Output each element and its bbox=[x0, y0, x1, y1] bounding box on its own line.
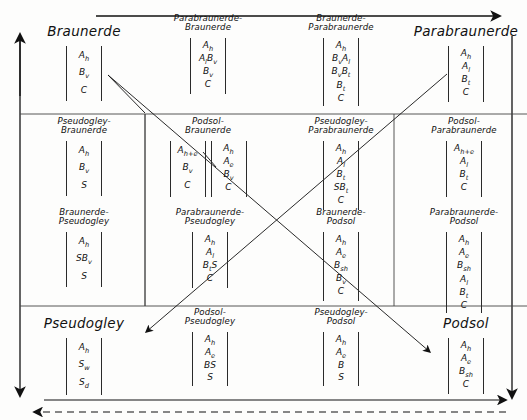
horizon-label: Bv bbox=[182, 160, 192, 177]
horizon-label: Ah bbox=[336, 234, 346, 247]
cell-title: Braunerde- Podsol bbox=[282, 208, 400, 227]
horizon-label: Ah+e bbox=[178, 143, 198, 160]
cell-title: Pseudogley- Parabraunerde bbox=[282, 117, 400, 136]
horizon-label: Ah bbox=[459, 234, 469, 247]
horizon-label: S bbox=[81, 178, 87, 194]
cell-title: Braunerde- Parabraunerde bbox=[282, 14, 400, 33]
horizon-label: Ae bbox=[205, 347, 215, 360]
horizon-label: C bbox=[205, 79, 211, 90]
profile-group: AhAeBshAlBtC bbox=[404, 232, 524, 313]
profile-group: AhAeBS bbox=[282, 332, 400, 386]
soil-profile-column: AhAeBSS bbox=[192, 332, 228, 386]
horizon-label: Ah bbox=[79, 234, 89, 251]
cell-title: Braunerde bbox=[24, 24, 144, 39]
soil-profile-column: AhAeBvC bbox=[211, 141, 247, 197]
horizon-label: C bbox=[338, 286, 344, 297]
horizon-label: Bt bbox=[337, 169, 346, 182]
horizon-label: Al bbox=[460, 156, 468, 169]
horizon-label: Bt bbox=[460, 169, 469, 182]
horizon-label: Ae bbox=[336, 347, 346, 360]
horizon-label: Bsh bbox=[459, 366, 473, 379]
cell-title: Parabraunerde bbox=[408, 24, 524, 39]
profile-group: Ah+eAlBtC bbox=[404, 141, 524, 197]
soil-profile-column: AhAeBshC bbox=[448, 338, 484, 394]
horizon-label: Ah bbox=[336, 143, 346, 156]
horizon-label: Ae bbox=[459, 247, 469, 260]
cell-title: Pseudogley bbox=[24, 316, 144, 331]
horizon-label: Bv bbox=[79, 160, 89, 177]
horizon-label: BtS bbox=[203, 260, 218, 273]
profile-group: AhAeBshC bbox=[408, 338, 524, 394]
profile-group: AhAlBtC bbox=[408, 46, 524, 102]
soil-profile-column: AhAlBtC bbox=[448, 46, 484, 102]
horizon-label: Ae bbox=[223, 156, 233, 169]
cell-title: Podsol- Braunerde bbox=[152, 117, 264, 136]
horizon-label: AlBv bbox=[199, 53, 217, 66]
horizon-label: S bbox=[338, 372, 344, 383]
horizon-label: Al bbox=[337, 156, 345, 169]
soil-profile-column: AhAlBtSBtC bbox=[323, 141, 359, 210]
profile-group: AhBvAlBvBtBtC bbox=[282, 38, 400, 106]
profile-group: AhAlBtSC bbox=[150, 232, 270, 288]
horizon-label: Bt bbox=[337, 80, 346, 93]
horizon-label: Ah+e bbox=[454, 143, 474, 156]
soil-profile-column: AhSBvS bbox=[66, 232, 102, 287]
soil-profile-column: AhAlBtSC bbox=[192, 232, 228, 288]
horizon-label: C bbox=[207, 273, 213, 284]
cell-title: Parabraunerde- Braunerde bbox=[152, 14, 264, 33]
horizon-label: Ah bbox=[203, 40, 213, 53]
cell-title: Podsol- Parabraunerde bbox=[404, 117, 524, 136]
soil-profile-column: AhBvC bbox=[66, 46, 102, 101]
soil-profile-column: AhAlBvBvC bbox=[190, 38, 226, 94]
horizon-label: Bsh bbox=[457, 260, 471, 273]
diagram-canvas: Braunerde AhBvC Parabraunerde- Braunerde… bbox=[0, 0, 527, 420]
profile-group: AhBvC bbox=[24, 46, 144, 101]
horizon-label: C bbox=[225, 182, 231, 193]
horizon-label: Ae bbox=[461, 353, 471, 366]
cell-title: Podsol bbox=[408, 316, 524, 331]
cell-title: Parabraunerde- Pseudogley bbox=[150, 208, 270, 227]
soil-profile-column: AhAeBshAlBtC bbox=[446, 232, 482, 313]
horizon-label: C bbox=[184, 178, 190, 194]
cell-title: Pseudogley- Podsol bbox=[282, 308, 400, 327]
horizon-label: C bbox=[461, 182, 467, 193]
profile-group: AhSwSd bbox=[24, 338, 144, 395]
cell-title: Braunerde- Pseudogley bbox=[24, 208, 144, 227]
horizon-label: Ah bbox=[336, 334, 346, 347]
profile-group: AhAeBSS bbox=[152, 332, 268, 386]
horizon-label: Ah bbox=[461, 340, 471, 353]
profile-group: AhSBvS bbox=[24, 232, 144, 287]
horizon-label: Ah bbox=[223, 143, 233, 156]
horizon-label: C bbox=[461, 300, 467, 310]
horizon-label: Bv bbox=[336, 273, 346, 286]
cell-title: Parabraunerde- Podsol bbox=[404, 208, 524, 227]
horizon-label: C bbox=[463, 87, 469, 98]
soil-profile-column: AhAeBS bbox=[323, 332, 359, 386]
horizon-label: Ah bbox=[336, 40, 346, 53]
horizon-label: S bbox=[81, 269, 87, 285]
horizon-label: Ah bbox=[79, 48, 89, 65]
horizon-label: Al bbox=[460, 274, 468, 287]
horizon-label: Ah bbox=[79, 143, 89, 160]
horizon-label: Ah bbox=[79, 340, 89, 357]
soil-profile-column: AhBvS bbox=[66, 141, 102, 196]
horizon-label: Ae bbox=[336, 247, 346, 260]
horizon-label: SBv bbox=[76, 251, 92, 268]
cell-title: Podsol- Pseudogley bbox=[152, 308, 268, 327]
horizon-label: Bt bbox=[462, 74, 471, 87]
horizon-label: Sw bbox=[78, 357, 89, 374]
horizon-label: C bbox=[81, 83, 87, 99]
soil-profile-column: Ah+eBvC bbox=[170, 141, 206, 197]
soil-profile-column: AhBvAlBvBtBtC bbox=[323, 38, 359, 106]
profile-group: Ah+eBvCAhAeBvC bbox=[152, 141, 264, 197]
horizon-label: BvAl bbox=[332, 53, 350, 66]
horizon-label: Sd bbox=[79, 375, 89, 392]
horizon-label: B bbox=[338, 360, 344, 371]
profile-group: AhBvS bbox=[24, 141, 144, 196]
horizon-label: Bv bbox=[79, 65, 89, 82]
horizon-label: Ah bbox=[205, 334, 215, 347]
horizon-label: Bsh bbox=[334, 260, 348, 273]
soil-profile-column: Ah+eAlBtC bbox=[446, 141, 482, 197]
horizon-label: S bbox=[207, 372, 213, 383]
horizon-label: Bt bbox=[460, 287, 469, 300]
